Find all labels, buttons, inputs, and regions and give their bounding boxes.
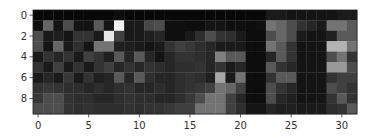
heatmap-cell xyxy=(53,83,63,94)
heatmap-cell xyxy=(33,10,43,21)
heatmap-cell xyxy=(144,31,154,42)
heatmap-cell xyxy=(74,31,84,42)
heatmap-cell xyxy=(175,93,185,104)
heatmap-cell xyxy=(317,10,327,21)
y-tick-label: 6 xyxy=(21,72,27,83)
heatmap-cell xyxy=(296,52,306,63)
heatmap-cell xyxy=(205,62,215,73)
heatmap-cell xyxy=(185,72,195,83)
heatmap-cell xyxy=(337,41,347,52)
heatmap-cell xyxy=(337,31,347,42)
heatmap-cell xyxy=(114,31,124,42)
x-tick-label: 10 xyxy=(133,120,146,131)
heatmap-cell xyxy=(74,20,84,31)
heatmap-cell xyxy=(63,72,73,83)
heatmap-cell xyxy=(246,83,256,94)
heatmap-cell xyxy=(276,41,286,52)
heatmap-cell xyxy=(347,20,357,31)
heatmap-cell xyxy=(43,10,53,21)
heatmap-cell xyxy=(327,10,337,21)
heatmap-cell xyxy=(347,52,357,63)
heatmap-cell xyxy=(347,31,357,42)
heatmap-cell xyxy=(124,10,134,21)
heatmap-cell xyxy=(53,41,63,52)
heatmap-cell xyxy=(104,52,114,63)
heatmap-cell xyxy=(144,20,154,31)
heatmap-cell xyxy=(63,83,73,94)
heatmap-cell xyxy=(165,93,175,104)
heatmap-cell xyxy=(276,83,286,94)
heatmap-cell xyxy=(215,41,225,52)
heatmap-cell xyxy=(286,72,296,83)
heatmap-cell xyxy=(63,31,73,42)
heatmap-cell xyxy=(327,41,337,52)
heatmap-cell xyxy=(195,62,205,73)
heatmap-cell xyxy=(74,72,84,83)
heatmap-cell xyxy=(185,62,195,73)
heatmap-cell xyxy=(104,10,114,21)
heatmap-cell xyxy=(165,52,175,63)
heatmap-cell xyxy=(43,72,53,83)
heatmap-cell xyxy=(266,83,276,94)
heatmap-cell xyxy=(317,31,327,42)
heatmap-cell xyxy=(225,52,235,63)
heatmap-cell xyxy=(114,62,124,73)
heatmap-cell xyxy=(155,104,165,115)
heatmap-cell xyxy=(266,93,276,104)
heatmap-cell xyxy=(43,83,53,94)
heatmap-cell xyxy=(337,10,347,21)
heatmap-cell xyxy=(225,10,235,21)
heatmap-cell xyxy=(347,104,357,115)
heatmap-cell xyxy=(276,20,286,31)
x-tick-label: 15 xyxy=(184,120,197,131)
heatmap-cell xyxy=(104,31,114,42)
heatmap-cell xyxy=(317,83,327,94)
heatmap-cell xyxy=(246,62,256,73)
heatmap-cell xyxy=(104,104,114,115)
heatmap-cell xyxy=(256,83,266,94)
heatmap-cell xyxy=(225,93,235,104)
heatmap-cell xyxy=(185,10,195,21)
y-tick-label: 4 xyxy=(21,51,27,62)
heatmap-cell xyxy=(124,41,134,52)
heatmap-cell xyxy=(104,62,114,73)
heatmap-cell xyxy=(195,31,205,42)
heatmap-cell xyxy=(347,72,357,83)
heatmap-cell xyxy=(155,20,165,31)
x-tick-label: 20 xyxy=(234,120,247,131)
heatmap-cell xyxy=(205,52,215,63)
heatmap-cell xyxy=(53,31,63,42)
heatmap-cell xyxy=(63,104,73,115)
heatmap-cell xyxy=(74,52,84,63)
heatmap-cell xyxy=(296,10,306,21)
heatmap-cell xyxy=(306,104,316,115)
heatmap-cell xyxy=(94,20,104,31)
heatmap-cell xyxy=(215,72,225,83)
heatmap-cell xyxy=(43,52,53,63)
heatmap-cell xyxy=(215,104,225,115)
y-tick-label: 0 xyxy=(21,10,27,21)
heatmap-cell xyxy=(347,10,357,21)
heatmap-cell xyxy=(114,20,124,31)
heatmap-cell xyxy=(144,52,154,63)
heatmap-cell xyxy=(296,62,306,73)
heatmap-cell xyxy=(185,52,195,63)
heatmap-cell xyxy=(43,31,53,42)
heatmap-cell xyxy=(215,62,225,73)
heatmap-cell xyxy=(155,83,165,94)
heatmap-cell xyxy=(327,52,337,63)
heatmap-cell xyxy=(246,31,256,42)
heatmap-cell xyxy=(317,41,327,52)
heatmap-cell xyxy=(124,52,134,63)
heatmap-cell xyxy=(175,62,185,73)
heatmap-cell xyxy=(94,62,104,73)
heatmap-cell xyxy=(84,83,94,94)
heatmap-cell xyxy=(256,10,266,21)
heatmap-cell xyxy=(327,93,337,104)
heatmap-cell xyxy=(74,62,84,73)
heatmap-cell xyxy=(134,104,144,115)
heatmap-cell xyxy=(33,83,43,94)
heatmap-cell xyxy=(134,52,144,63)
heatmap-cell xyxy=(195,104,205,115)
heatmap-cell xyxy=(246,104,256,115)
